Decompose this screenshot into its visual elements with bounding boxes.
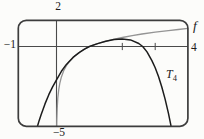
viewing-window-box <box>18 20 188 126</box>
t4-label-subscript: 4 <box>173 73 177 83</box>
curve-t4-label: T4 <box>166 68 177 83</box>
taylor-polynomial-figure: 2 −1 4 −5 f T4 <box>0 0 204 139</box>
curve-f-label: f <box>193 19 197 33</box>
y-max-label: 2 <box>52 1 64 13</box>
y-min-label: −5 <box>48 127 70 139</box>
x-max-label: 4 <box>191 42 197 54</box>
x-min-label: −1 <box>0 39 16 51</box>
t4-label-base: T <box>166 67 173 81</box>
